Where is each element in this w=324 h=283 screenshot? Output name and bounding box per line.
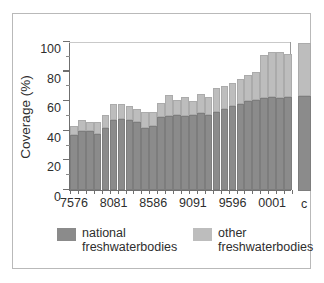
bar-segment-national xyxy=(70,135,78,190)
bar-segment-national xyxy=(173,115,181,190)
bar-segment-other xyxy=(268,52,276,96)
bar-segment-national xyxy=(141,128,149,190)
y-tick-80 xyxy=(63,70,70,71)
bar-7879 xyxy=(94,122,102,190)
bar-segment-other xyxy=(70,126,78,135)
bar-segment-national xyxy=(126,120,134,190)
y-tick-minor-70 xyxy=(66,85,70,86)
bar-segment-national xyxy=(213,112,221,190)
y-tick-20 xyxy=(63,159,70,160)
bar-segment-national xyxy=(205,115,213,190)
x-tick-8 xyxy=(133,190,134,194)
bar-segment-other xyxy=(189,101,197,114)
bar-c-segment-other xyxy=(298,43,311,96)
plot-area: 020406080100 757680818586909195960001 xyxy=(69,43,291,191)
bar-segment-national xyxy=(157,117,165,190)
bar-segment-other xyxy=(237,79,245,104)
legend-label-line1: other xyxy=(218,227,313,241)
legend-swatch-national xyxy=(57,228,76,241)
bar-segment-other xyxy=(229,83,237,105)
legend-entry-national: nationalfreshwaterbodies xyxy=(57,227,177,254)
bar-segment-national xyxy=(229,106,237,190)
bar-segment-other xyxy=(181,97,189,116)
bar-9798 xyxy=(244,75,252,190)
x-tick-7 xyxy=(126,190,127,194)
y-tick-100 xyxy=(63,41,70,42)
bar-9495 xyxy=(221,86,229,190)
bar-9091 xyxy=(189,101,197,190)
x-tick-20 xyxy=(229,190,230,194)
x-tick-label-c: c xyxy=(301,198,307,211)
bar-segment-other xyxy=(221,86,229,108)
bar-segment-national xyxy=(133,122,141,190)
y-tick-40 xyxy=(63,130,70,131)
bar-c-total xyxy=(298,43,311,191)
bar-8788 xyxy=(165,95,173,190)
bar-segment-other xyxy=(284,54,292,97)
bar-8384 xyxy=(133,109,141,190)
bar-segment-other xyxy=(244,75,252,102)
x-tick-13 xyxy=(173,190,174,194)
bar-segment-national xyxy=(94,134,102,190)
x-tick-label-8081: 8081 xyxy=(100,197,128,210)
legend-entry-other: otherfreshwaterbodies xyxy=(193,227,313,254)
bar-segment-other xyxy=(78,120,86,130)
bar-segment-other xyxy=(205,97,213,115)
bar-c xyxy=(298,43,311,191)
bar-8081 xyxy=(110,104,118,190)
bar-segment-other xyxy=(173,100,181,115)
x-tick-18 xyxy=(213,190,214,194)
x-tick-16 xyxy=(197,190,198,194)
x-tick-3 xyxy=(94,190,95,194)
bar-segment-other xyxy=(149,112,157,127)
x-tick-28 xyxy=(292,190,293,194)
bar-segment-other xyxy=(157,103,165,118)
x-tick-label-0001: 0001 xyxy=(258,197,286,210)
chart-figure: Coverage (%) 020406080100 75768081858690… xyxy=(12,13,311,269)
bar-segment-other xyxy=(213,88,221,112)
bar-8990 xyxy=(181,97,189,190)
x-tick-6 xyxy=(118,190,119,194)
x-tick-label-9596: 9596 xyxy=(219,197,247,210)
x-tick-0 xyxy=(70,190,71,194)
bar-segment-other xyxy=(276,52,284,98)
bar-segment-national xyxy=(252,100,260,190)
bar-segment-national xyxy=(268,97,276,190)
y-tick-0 xyxy=(63,189,70,190)
x-tick-label-7576: 7576 xyxy=(60,197,88,210)
x-tick-24 xyxy=(260,190,261,194)
legend-swatch-other xyxy=(193,228,212,241)
x-tick-23 xyxy=(252,190,253,194)
bar-0102 xyxy=(276,52,284,190)
x-tick-17 xyxy=(205,190,206,194)
bar-segment-national xyxy=(244,101,252,190)
bar-segment-national xyxy=(189,115,197,190)
bar-segment-other xyxy=(102,115,110,128)
x-tick-12 xyxy=(165,190,166,194)
bar-segment-national xyxy=(102,128,110,190)
x-tick-label-8586: 8586 xyxy=(139,197,167,210)
x-tick-5 xyxy=(110,190,111,194)
bar-segment-other xyxy=(118,104,126,119)
bar-segment-national xyxy=(181,116,189,190)
x-tick-11 xyxy=(157,190,158,194)
y-tick-60 xyxy=(63,100,70,101)
bar-segment-other xyxy=(252,72,260,100)
y-tick-minor-90 xyxy=(66,56,70,57)
bar-9394 xyxy=(213,88,221,190)
y-tick-minor-50 xyxy=(66,115,70,116)
bar-8889 xyxy=(173,100,181,190)
x-tick-25 xyxy=(268,190,269,194)
x-tick-4 xyxy=(102,190,103,194)
bar-9192 xyxy=(197,94,205,190)
legend-label-line2: freshwaterbodies xyxy=(82,241,177,255)
bar-7980 xyxy=(102,115,110,190)
legend-label-line1: national xyxy=(82,227,177,241)
bar-segment-other xyxy=(133,109,141,122)
bar-segment-national xyxy=(86,131,94,190)
bar-segment-other xyxy=(141,112,149,128)
bar-segment-national xyxy=(78,131,86,190)
x-tick-2 xyxy=(86,190,87,194)
bar-segment-other xyxy=(260,55,268,98)
bar-8283 xyxy=(126,106,134,190)
